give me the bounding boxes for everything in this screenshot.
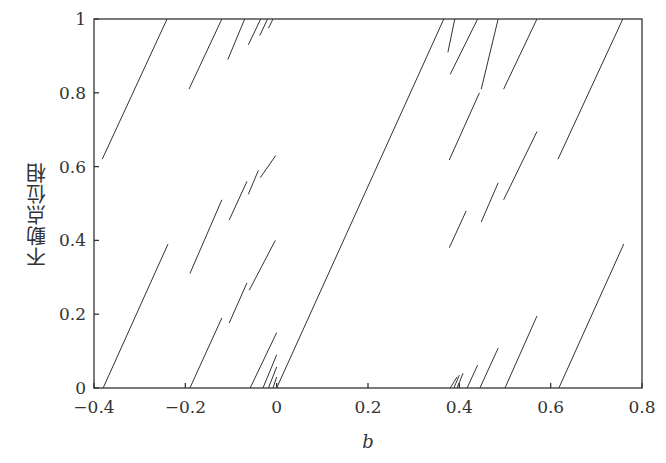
y-tick-label: 0 [75,378,86,398]
x-axis-label: b [362,431,374,452]
x-tick-label: 0.4 [446,397,473,417]
segment-line [248,170,258,194]
segment-line [480,348,498,388]
segment-line [481,19,498,89]
x-tick-label: 0.6 [537,397,564,417]
segment-line [249,240,275,290]
x-tick-label: 0.8 [628,397,655,417]
y-tick-label: 0.2 [59,304,86,324]
segment-line [481,183,498,222]
segment-line [248,19,260,45]
y-tick-label: 1 [75,9,86,29]
fixed-point-phase-segments [102,19,624,388]
segment-line [449,93,479,160]
segment-line [229,181,247,220]
segment-line [229,283,247,323]
segment-line [268,19,273,28]
segment-line [558,19,623,159]
segment-line [457,373,463,388]
segment-line [467,365,478,388]
x-tick-label: −0.2 [165,397,206,417]
y-axis-ticks: 00.20.40.60.81 [59,9,99,398]
segment-line [260,156,276,178]
y-tick-label: 0.4 [59,230,86,250]
y-tick-label: 0.6 [59,157,86,177]
segment-line [190,200,222,274]
chart-canvas: −0.4−0.200.20.40.60.8 00.20.40.60.81 b [0,0,666,463]
segment-line [449,211,466,248]
x-tick-label: 0 [271,397,282,417]
segment-line [250,333,276,388]
segment-line [448,19,455,52]
segment-line [190,318,222,388]
segment-line [103,244,168,388]
segment-line [102,19,167,159]
x-tick-label: −0.4 [73,397,114,417]
segment-line [450,19,477,74]
segment-line [505,316,537,388]
y-tick-label: 0.8 [59,83,86,103]
segment-line [189,19,222,89]
x-tick-label: 0.2 [354,397,381,417]
segment-line [268,367,276,388]
plot-frame [94,19,642,388]
y-axis-label: 不動点位相 [22,150,48,280]
segment-line [559,244,624,388]
segment-line [504,19,537,89]
segment-line [277,19,444,388]
segment-line [504,132,537,200]
segment-line [260,19,268,36]
segment-line [228,19,245,60]
